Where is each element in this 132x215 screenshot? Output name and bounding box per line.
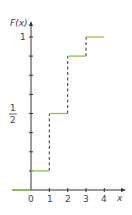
y-axis-label: F(x): [10, 18, 28, 28]
x-axis-arrow-icon: [121, 188, 126, 192]
y-tick-label-half-num: 1: [10, 103, 16, 113]
x-tick-label-1: 1: [47, 194, 53, 204]
x-tick-label-4: 4: [101, 194, 107, 204]
x-tick-label-0: 0: [28, 194, 34, 204]
cdf-chart: F(x) 1 1 2 0 1 2 3 4 x: [0, 0, 132, 215]
y-tick-label-half-den: 2: [10, 115, 16, 125]
y-axis-arrow-icon: [29, 21, 33, 26]
step-series: [12, 37, 104, 190]
x-tick-label-3: 3: [83, 194, 89, 204]
y-tick-label-1: 1: [20, 32, 26, 42]
jump-lines: [49, 37, 86, 171]
x-tick-label-2: 2: [65, 194, 71, 204]
x-axis-label: x: [116, 193, 123, 203]
